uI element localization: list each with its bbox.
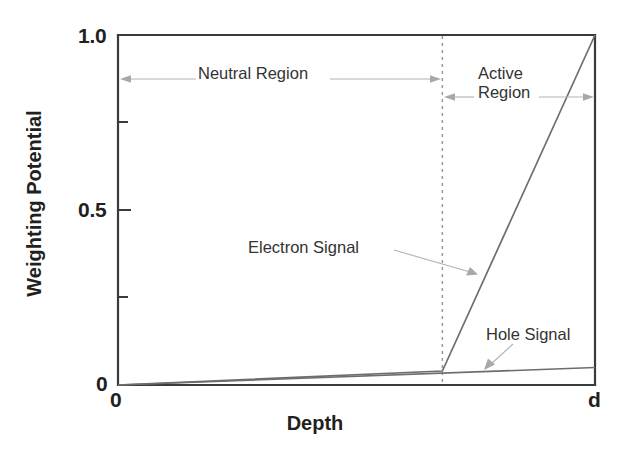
x-axis-tick-label-right: d xyxy=(588,388,601,412)
y-axis-tick-label-top: 1.0 xyxy=(78,24,107,48)
electron-signal-leader xyxy=(394,250,478,275)
annotation-label-active-region-line2: Region xyxy=(478,83,530,102)
y-axis-tick-label-bottom: 0 xyxy=(96,372,107,396)
annotation-label-active-region-line1: Active xyxy=(478,64,530,83)
annotation-label-neutral-region: Neutral Region xyxy=(198,64,308,83)
weighting-potential-chart: 1.0 0.5 0 0 d Weighting Potential Depth … xyxy=(0,0,630,454)
y-axis-tick-label-mid: 0.5 xyxy=(78,198,107,222)
annotation-label-electron-signal: Electron Signal xyxy=(248,238,359,257)
x-axis-tick-label-left: 0 xyxy=(110,388,121,412)
annotation-label-hole-signal: Hole Signal xyxy=(486,325,570,344)
annotation-label-active-region: Active Region xyxy=(478,64,530,102)
chart-canvas xyxy=(0,0,630,454)
hole-signal-leader xyxy=(484,344,513,370)
series-hole-signal xyxy=(118,368,595,386)
y-axis-title: Weighting Potential xyxy=(23,94,46,314)
x-axis-title: Depth xyxy=(0,412,630,435)
